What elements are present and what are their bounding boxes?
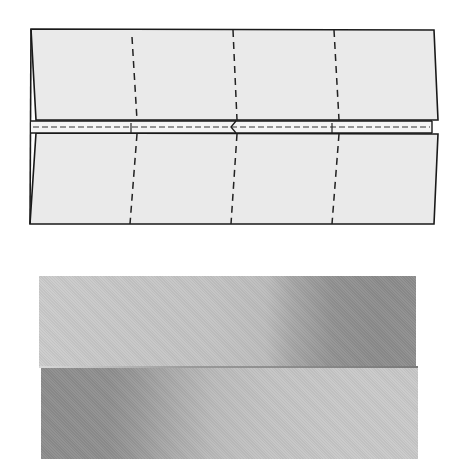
upper-flap <box>31 29 438 120</box>
folding-diagram <box>0 0 464 260</box>
photo-center-seam <box>39 366 418 368</box>
photo-lower-strip <box>41 368 418 459</box>
lower-flap <box>30 133 438 224</box>
left-outer-edge <box>30 29 31 224</box>
photo-upper-strip <box>39 276 416 367</box>
